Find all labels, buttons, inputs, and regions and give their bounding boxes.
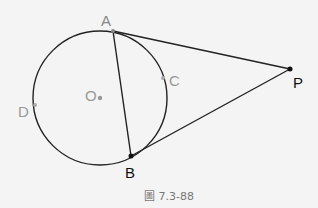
- label-p: P: [293, 74, 303, 91]
- point-p: [288, 67, 293, 72]
- label-b: B: [125, 164, 135, 181]
- figure-caption: 圖 7.3-88: [144, 187, 194, 203]
- tangent-pb: [131, 69, 290, 156]
- label-d: D: [18, 103, 29, 120]
- label-o: O: [85, 87, 97, 104]
- tangent-pa: [113, 31, 290, 69]
- point-o: [98, 96, 102, 100]
- label-c: C: [169, 72, 180, 89]
- point-b: [129, 154, 134, 159]
- point-a: [111, 29, 115, 33]
- chord-ab: [113, 31, 131, 156]
- geometry-diagram: A B C D O P: [0, 0, 318, 208]
- point-c: [161, 76, 165, 80]
- point-d: [33, 103, 37, 107]
- label-a: A: [101, 12, 111, 29]
